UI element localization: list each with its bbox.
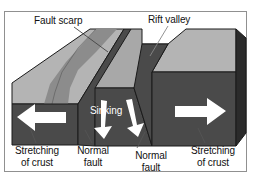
label-sinking: Sinking [90,105,122,116]
label-stretching-left-line2: of crust [21,157,53,168]
label-stretching-left-line1: Stretching [15,145,59,156]
label-stretching-of-crust-right: Stretching of crust [180,145,246,168]
label-fault-scarp: Fault scarp [34,15,82,26]
left-block-front-face [12,104,78,145]
label-normal-fault-right-line1: Normal [135,150,167,161]
label-normal-fault-right-line2: fault [142,162,160,173]
label-stretching-right-line1: Stretching [191,145,235,156]
label-stretching-right-line2: of crust [197,157,229,168]
label-stretching-of-crust-left: Stretching of crust [5,145,69,168]
label-normal-fault-left: Normal fault [68,145,118,168]
label-normal-fault-left-line2: fault [84,157,102,168]
label-rift-valley: Rift valley [148,14,190,25]
label-normal-fault-right: Normal fault [126,150,176,173]
right-block-side-face [236,29,246,146]
label-normal-fault-left-line1: Normal [77,145,109,156]
figure-root: Fault scarp Rift valley Sinking Stretchi… [0,0,253,178]
